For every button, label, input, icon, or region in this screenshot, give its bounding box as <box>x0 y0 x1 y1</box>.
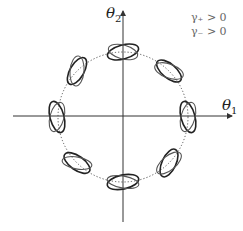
legend-gamma-minus: γ₋ > 0 <box>191 25 227 39</box>
x-axis-symbol: θ <box>222 96 231 114</box>
x-axis-subscript: 1 <box>231 105 237 116</box>
phase-diagram: θ2 θ1 γ₊ > 0 γ₋ > 0 <box>0 0 243 231</box>
x-axis-label: θ1 <box>222 98 237 116</box>
orbit-bottom-left <box>61 149 94 178</box>
y-axis-label: θ2 <box>106 6 121 24</box>
y-axis-subscript: 2 <box>115 13 121 24</box>
orbit-top-left <box>63 55 90 88</box>
orbit-top-right <box>153 56 186 86</box>
y-axis-symbol: θ <box>106 4 115 22</box>
legend-gamma-plus: γ₊ > 0 <box>191 11 227 25</box>
orbit-left <box>46 100 68 135</box>
orbit-bottom-right <box>153 146 185 179</box>
legend: γ₊ > 0 γ₋ > 0 <box>191 11 227 39</box>
